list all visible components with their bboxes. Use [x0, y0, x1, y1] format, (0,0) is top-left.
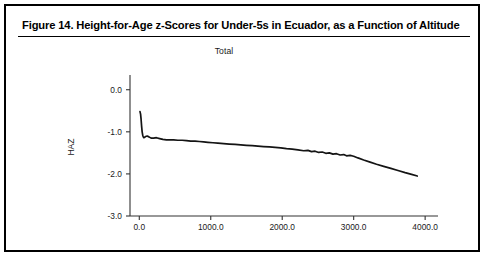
y-axis-ticks: 0.0-1.0-2.0-3.0: [108, 85, 130, 221]
x-tick-label: 1000.0: [198, 222, 224, 232]
chart-panel: Total 0.0-1.0-2.0-3.0 0.01000.02000.0300…: [6, 42, 482, 250]
x-tick-label: 2000.0: [269, 222, 295, 232]
title-divider: [18, 36, 470, 37]
x-tick-label: 0.0: [133, 222, 145, 232]
x-tick-label: 3000.0: [341, 222, 367, 232]
x-axis-ticks: 0.01000.02000.03000.04000.0: [133, 216, 438, 232]
chart-svg: 0.0-1.0-2.0-3.0 0.01000.02000.03000.0400…: [6, 42, 482, 250]
x-tick-label: 4000.0: [412, 222, 438, 232]
y-axis-title: HAZ: [66, 138, 76, 155]
y-tick-label: 0.0: [110, 85, 122, 95]
y-tick-label: -1.0: [108, 127, 123, 137]
chart-plot-area: 0.0-1.0-2.0-3.0 0.01000.02000.03000.0400…: [6, 42, 482, 250]
y-tick-label: -2.0: [108, 169, 123, 179]
y-tick-label: -3.0: [108, 211, 123, 221]
figure-inner: Figure 14. Height-for-Age z-Scores for U…: [6, 6, 478, 250]
figure-title: Figure 14. Height-for-Age z-Scores for U…: [22, 18, 468, 32]
figure-frame: Figure 14. Height-for-Age z-Scores for U…: [4, 4, 480, 252]
data-series-line: [140, 112, 417, 176]
